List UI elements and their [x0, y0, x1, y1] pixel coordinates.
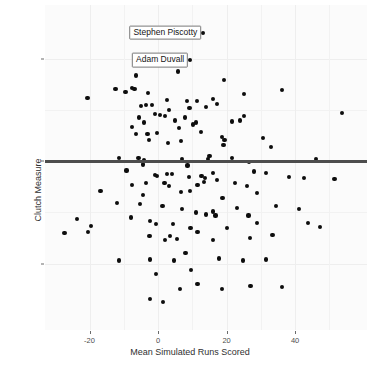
- zero-reference-line: [45, 160, 367, 163]
- x-axis-title: Mean Simulated Runs Scored: [0, 347, 380, 357]
- data-point: [202, 180, 206, 184]
- data-point: [173, 118, 177, 122]
- gridline-vertical-minor: [261, 5, 262, 330]
- data-point: [89, 224, 93, 228]
- data-point: [246, 213, 250, 217]
- data-point: [165, 98, 169, 102]
- data-point: [252, 169, 256, 173]
- data-point: [167, 108, 171, 112]
- y-axis-tick-mark: [41, 59, 44, 60]
- data-point: [233, 181, 237, 185]
- data-point: [274, 204, 278, 208]
- data-point: [167, 184, 171, 188]
- data-point: [163, 114, 167, 118]
- x-axis-tick-label: 40: [291, 336, 299, 345]
- x-axis-tick-mark: [158, 331, 159, 334]
- point-label-1: Stephen Piscotty: [129, 25, 201, 40]
- data-point: [195, 230, 199, 234]
- x-axis-tick-mark: [227, 331, 228, 334]
- data-point: [180, 207, 184, 211]
- data-point: [176, 69, 180, 73]
- data-point: [302, 176, 306, 180]
- data-point: [221, 143, 225, 147]
- data-point: [248, 284, 252, 288]
- data-point: [187, 175, 191, 179]
- gridline-vertical: [295, 5, 296, 330]
- data-point: [264, 171, 268, 175]
- data-point: [154, 222, 158, 226]
- data-point: [75, 217, 79, 221]
- data-point: [132, 87, 136, 91]
- data-point: [230, 119, 234, 123]
- data-point: [183, 115, 187, 119]
- data-point: [146, 91, 150, 95]
- data-point: [215, 102, 219, 106]
- data-point: [142, 120, 146, 124]
- data-point: [177, 126, 181, 130]
- data-point: [211, 97, 215, 101]
- data-point: [238, 118, 242, 122]
- data-point: [168, 234, 172, 238]
- point-label-2: Adam Duvall: [132, 53, 188, 68]
- data-point: [165, 172, 169, 176]
- data-point: [144, 103, 148, 107]
- gridline-vertical: [227, 5, 228, 330]
- data-point: [170, 172, 174, 176]
- data-point: [123, 90, 127, 94]
- data-point: [62, 231, 66, 235]
- data-point: [195, 99, 199, 103]
- data-point: [188, 226, 192, 230]
- x-axis-tick-label: -20: [84, 336, 95, 345]
- data-point: [332, 177, 336, 181]
- x-axis-tick-label: 0: [156, 336, 160, 345]
- data-point: [211, 238, 215, 242]
- data-point: [141, 162, 145, 166]
- data-point: [280, 88, 284, 92]
- data-point: [225, 226, 229, 230]
- x-axis-tick-label: 20: [222, 336, 230, 345]
- data-point: [171, 222, 175, 226]
- data-point: [222, 78, 226, 82]
- data-point: [145, 132, 149, 136]
- data-point: [113, 87, 117, 91]
- gridline-horizontal-minor: [45, 110, 367, 111]
- data-point: [235, 206, 239, 210]
- data-point: [194, 120, 198, 124]
- data-point: [248, 236, 252, 240]
- data-point: [318, 225, 322, 229]
- data-point: [141, 193, 145, 197]
- data-point: [175, 237, 179, 241]
- data-point: [183, 251, 187, 255]
- data-point: [179, 139, 183, 143]
- data-point: [98, 189, 102, 193]
- scatter-plot: Stephen PiscottyAdam Duvall 100-10 -2002…: [0, 0, 380, 379]
- data-point: [280, 285, 284, 289]
- data-point: [148, 257, 152, 261]
- data-point: [204, 105, 208, 109]
- data-point: [201, 31, 205, 35]
- data-point: [270, 233, 274, 237]
- data-point: [166, 141, 170, 145]
- y-axis-title: Clutch Measure: [33, 158, 43, 221]
- data-point: [241, 258, 245, 262]
- data-point: [160, 204, 164, 208]
- data-point: [204, 212, 208, 216]
- data-point: [155, 131, 159, 135]
- data-point: [217, 256, 221, 260]
- data-point: [134, 132, 138, 136]
- data-point: [194, 210, 198, 214]
- data-point: [242, 92, 246, 96]
- data-point: [150, 103, 154, 107]
- data-point: [148, 219, 152, 223]
- data-point: [147, 234, 151, 238]
- data-point: [306, 221, 310, 225]
- plot-panel: Stephen PiscottyAdam Duvall: [45, 5, 367, 330]
- data-point: [158, 113, 162, 117]
- data-point: [261, 136, 265, 140]
- data-point: [117, 258, 121, 262]
- data-point: [215, 178, 219, 182]
- data-point: [199, 130, 203, 134]
- data-point: [255, 221, 259, 225]
- data-point: [163, 238, 167, 242]
- data-point: [242, 114, 246, 118]
